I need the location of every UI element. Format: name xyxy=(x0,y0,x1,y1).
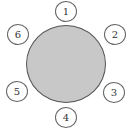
seat-label: 3 xyxy=(111,87,117,98)
round-table xyxy=(26,25,106,103)
seat-6: 6 xyxy=(7,24,29,45)
seat-3: 3 xyxy=(103,82,125,103)
seat-label: 2 xyxy=(112,29,118,40)
seating-diagram: 1 2 3 4 5 6 xyxy=(0,0,130,133)
seat-label: 6 xyxy=(15,29,21,40)
seat-label: 1 xyxy=(63,6,69,17)
seat-1: 1 xyxy=(55,1,77,22)
seat-label: 5 xyxy=(14,86,20,97)
seat-2: 2 xyxy=(104,24,126,45)
seat-4: 4 xyxy=(55,107,77,128)
seat-label: 4 xyxy=(63,112,69,123)
seat-5: 5 xyxy=(6,81,28,102)
